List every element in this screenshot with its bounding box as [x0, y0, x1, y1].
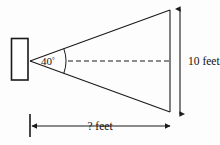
- vertical-dimension-label: 10 feet: [188, 55, 220, 67]
- rectangle-object: [12, 39, 29, 81]
- geometry-diagram: 40° 10 feet ? feet: [0, 0, 220, 145]
- angle-label: 40°: [41, 55, 55, 67]
- cone-lower-ray: [30, 61, 170, 112]
- degree-symbol: °: [52, 56, 55, 64]
- cone-upper-ray: [30, 10, 170, 61]
- angle-value: 40: [41, 55, 53, 67]
- diagram-canvas: 40° 10 feet ? feet: [0, 0, 220, 145]
- horizontal-dimension-label: ? feet: [87, 120, 113, 132]
- angle-arc: [64, 49, 66, 74]
